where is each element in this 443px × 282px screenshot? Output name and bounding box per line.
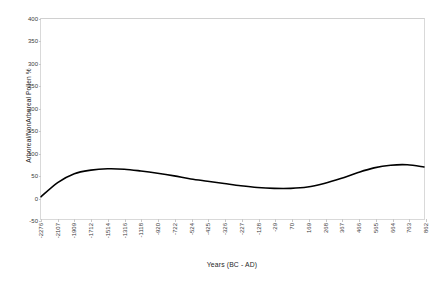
- x-tick-label: 70: [289, 223, 295, 230]
- x-tick-label: -1909: [71, 223, 77, 238]
- x-tick-label: 664: [390, 223, 396, 233]
- x-tick-mark: [208, 219, 209, 222]
- x-tick-label: 763: [406, 223, 412, 233]
- x-tick-mark: [108, 219, 109, 222]
- x-tick-mark: [158, 219, 159, 222]
- plot-area: 400350300250200150100500-50 -2276-2107-1…: [40, 18, 425, 220]
- x-tick-mark: [309, 219, 310, 222]
- x-tick-label: -2276: [38, 223, 44, 238]
- x-tick-mark: [409, 219, 410, 222]
- x-tick-label: 169: [306, 223, 312, 233]
- x-tick-label: -128: [256, 223, 262, 235]
- x-tick-mark: [225, 219, 226, 222]
- x-tick-mark: [326, 219, 327, 222]
- x-tick-label: -1514: [105, 223, 111, 238]
- x-tick-mark: [91, 219, 92, 222]
- x-tick-label: 367: [339, 223, 345, 233]
- x-tick-mark: [275, 219, 276, 222]
- x-tick-label: 466: [356, 223, 362, 233]
- x-tick-label: -722: [172, 223, 178, 235]
- x-tick-mark: [74, 219, 75, 222]
- x-tick-label: -227: [239, 223, 245, 235]
- x-tick-mark: [58, 219, 59, 222]
- series-layer: [41, 19, 424, 219]
- x-tick-mark: [192, 219, 193, 222]
- x-tick-mark: [359, 219, 360, 222]
- series-line: [41, 165, 424, 197]
- x-tick-label: -1712: [88, 223, 94, 238]
- x-tick-mark: [376, 219, 377, 222]
- x-tick-mark: [259, 219, 260, 222]
- x-tick-label: -425: [205, 223, 211, 235]
- x-tick-mark: [41, 219, 42, 222]
- x-tick-label: -1118: [138, 223, 144, 237]
- x-tick-label: -326: [222, 223, 228, 235]
- x-tick-mark: [125, 219, 126, 222]
- x-tick-mark: [393, 219, 394, 222]
- x-tick-label: -1316: [122, 223, 128, 238]
- x-tick-label: -524: [189, 223, 195, 235]
- x-tick-mark: [426, 219, 427, 222]
- x-tick-mark: [242, 219, 243, 222]
- x-axis-title: Years (BC - AD): [38, 261, 426, 268]
- x-tick-label: -2107: [55, 223, 61, 238]
- x-tick-mark: [175, 219, 176, 222]
- x-tick-label: -920: [155, 223, 161, 235]
- x-tick-mark: [292, 219, 293, 222]
- x-tick-mark: [342, 219, 343, 222]
- x-tick-label: 565: [373, 223, 379, 233]
- pollen-line-chart: Arboreal/NonArboreal Pollen % 4003503002…: [0, 0, 443, 282]
- x-tick-label: 268: [323, 223, 329, 233]
- x-tick-mark: [141, 219, 142, 222]
- x-tick-label: 862: [423, 223, 429, 233]
- x-tick-label: -29: [272, 223, 278, 232]
